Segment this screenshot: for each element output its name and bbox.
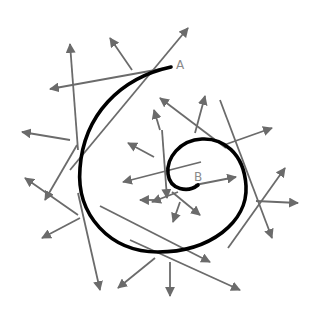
spiral-curve [80,67,246,252]
normal-vector-arrow [110,38,132,70]
vector-arrow [162,130,167,198]
vector-arrow [154,110,160,130]
point-a-label: A [176,58,185,72]
normal-vector-arrow [228,168,285,248]
point-b-label: B [194,170,202,184]
normal-vector-arrow [78,193,100,290]
normal-vector-arrow [70,44,78,150]
normal-vector-arrow [22,132,70,140]
tangent-vector-arrow [70,28,188,170]
tangent-vector-arrow [45,145,77,200]
normal-vector-arrow [128,143,154,157]
tangent-vector-arrow [42,218,80,238]
normal-vector-arrow [118,258,155,288]
vector-arrow [173,202,180,222]
diagram-canvas: A B [0,0,318,316]
tangent-vector-arrow [256,201,298,203]
spiral-vector-diagram: A B [0,0,318,316]
normal-vector-arrow [220,100,272,238]
tangent-vector-arrow [123,162,201,182]
normal-vector-arrow [25,178,78,215]
